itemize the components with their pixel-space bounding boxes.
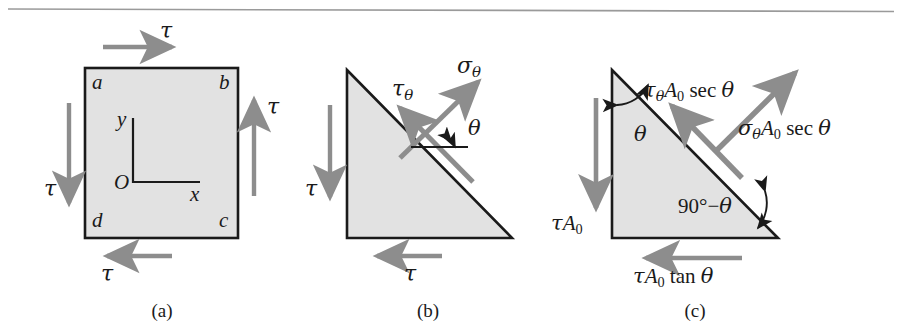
panel-c-inclined-theta: θ [722,78,735,102]
figure-container: a b c d y O x τ τ τ τ τ τ τθ σθ θ τA0 τA… [0,0,902,335]
panel-b-normal-stress-subscript: θ [472,63,481,81]
panel-a-axis-label-x: x [190,184,199,205]
panel-c-bottom-force-area: A [645,264,658,288]
panel-a-axis-origin-label: O [114,172,129,193]
panel-c-bottom-force-tan: tan [670,264,696,288]
caption-panel-b: (b) [398,300,458,322]
panel-b-inclined-shear-subscript: θ [404,86,413,104]
caption-panel-c: (c) [665,300,725,322]
panel-c-normal-sec: sec [786,116,813,140]
panel-c-left-force-tau: τ [551,211,563,235]
panel-c-normal-area-subscript: 0 [774,126,781,142]
panel-c-complement-theta: θ [719,194,732,218]
panel-c-normal-sigma-subscript: θ [752,126,761,142]
panel-a-right-shear-label: τ [267,96,279,118]
panel-a-corner-label-b: b [219,72,230,93]
panel-b-inclined-shear-symbol: τ [392,76,404,101]
panel-c-left-force-area-subscript: 0 [575,221,582,237]
panel-b-triangle [347,70,512,238]
panel-c-bottom-force-area-subscript: 0 [657,274,664,290]
panel-b-normal-stress-label: σθ [457,55,481,80]
panel-a-axis-label-y: y [117,109,126,130]
panel-a-square [85,68,238,238]
panel-c-left-force-area: A [563,211,576,235]
panel-a-bottom-shear-label: τ [101,263,113,285]
panel-a-corner-label-c: c [219,210,228,231]
caption-panel-a: (a) [132,300,192,322]
panel-c-bottom-force-tau: τ [633,264,645,288]
figure-graphics [0,0,902,335]
top-divider-rule [8,9,894,12]
panel-a-corner-label-a: a [92,72,103,93]
panel-b-theta-label: θ [468,118,481,139]
panel-c-inclined-tau-subscript: θ [656,88,665,104]
panel-c-normal-area: A [761,116,774,140]
panel-c-complement-prefix: 90°− [678,194,719,218]
panel-c-left-force-label: τA0 [551,213,583,236]
panel-b-left-shear-label: τ [305,178,317,200]
panel-c-inclined-tau: τ [644,78,656,102]
panel-c-normal-sigma: σ [738,116,752,140]
panel-c-inclined-area: A [664,78,677,102]
panel-b-inclined-shear-label: τθ [392,78,413,103]
panel-c-inclined-shear-force-label: τθA0 sec θ [644,80,734,103]
panel-c-bottom-force-theta: θ [701,264,714,288]
panel-c-inclined-sec: sec [689,78,716,102]
panel-c-normal-force-label: σθA0 sec θ [738,118,831,141]
panel-c-complement-angle-label: 90°−θ [678,196,732,217]
panel-b-normal-stress-symbol: σ [457,53,472,78]
panel-a-left-shear-label: τ [44,178,56,200]
panel-a-corner-label-d: d [92,210,103,231]
panel-c-bottom-force-label: τA0 tan θ [633,266,713,289]
panel-c-normal-theta: θ [818,116,831,140]
panel-b-bottom-shear-label: τ [404,263,416,285]
panel-c-theta-label: θ [634,124,647,145]
panel-a-top-shear-label: τ [160,20,172,42]
